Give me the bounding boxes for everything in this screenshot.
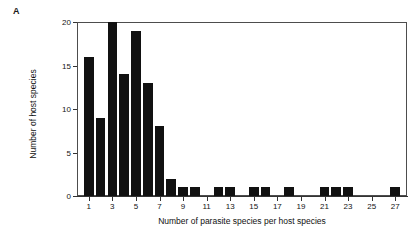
- x-axis-tick-label: 11: [196, 202, 218, 211]
- bars-layer: [77, 22, 407, 196]
- histogram-bar: [343, 187, 353, 196]
- x-axis-tick: [207, 197, 208, 201]
- x-axis-tick-label: 5: [125, 202, 147, 211]
- histogram-figure: A 05101520 Number of host species 135791…: [0, 0, 420, 237]
- y-axis-line: [77, 22, 78, 197]
- x-axis-tick: [348, 197, 349, 201]
- x-axis-tick-label: 25: [361, 202, 383, 211]
- x-axis-tick-label: 21: [314, 202, 336, 211]
- histogram-bar: [331, 187, 341, 196]
- x-axis-tick: [325, 197, 326, 201]
- histogram-bar: [178, 187, 188, 196]
- y-axis-tick-label: 0: [49, 192, 71, 201]
- histogram-bar: [96, 118, 106, 196]
- y-axis-tick-label: 5: [49, 148, 71, 157]
- x-axis-tick: [160, 197, 161, 201]
- y-axis-tick-label: 20: [49, 18, 71, 27]
- histogram-bar: [119, 74, 129, 196]
- x-axis-tick: [277, 197, 278, 201]
- histogram-bar: [225, 187, 235, 196]
- y-axis-tick: [73, 66, 77, 67]
- histogram-bar: [249, 187, 259, 196]
- histogram-bar: [131, 31, 141, 196]
- x-axis-tick: [395, 197, 396, 201]
- x-axis-tick-label: 13: [219, 202, 241, 211]
- x-axis-tick: [230, 197, 231, 201]
- panel-label-a: A: [13, 6, 20, 16]
- x-axis-tick-label: 15: [243, 202, 265, 211]
- x-axis-tick: [112, 197, 113, 201]
- histogram-bar: [84, 57, 94, 196]
- y-axis-tick-labels: 05101520: [46, 0, 71, 237]
- x-axis-tick-label: 7: [149, 202, 171, 211]
- x-axis-tick: [372, 197, 373, 201]
- x-axis-tick: [254, 197, 255, 201]
- y-axis-tick: [73, 22, 77, 23]
- y-axis-tick: [73, 153, 77, 154]
- histogram-bar: [166, 179, 176, 196]
- y-axis-tick-label: 10: [49, 105, 71, 114]
- histogram-bar: [190, 187, 200, 196]
- x-axis-line: [77, 196, 408, 197]
- histogram-bar: [155, 126, 165, 196]
- histogram-bar: [214, 187, 224, 196]
- x-axis-tick: [183, 197, 184, 201]
- y-axis-tick: [73, 109, 77, 110]
- x-axis-tick-label: 23: [337, 202, 359, 211]
- histogram-bar: [108, 22, 118, 196]
- x-axis-tick-label: 27: [384, 202, 406, 211]
- x-axis-tick: [136, 197, 137, 201]
- histogram-bar: [390, 187, 400, 196]
- histogram-bar: [143, 83, 153, 196]
- x-axis-tick-label: 9: [172, 202, 194, 211]
- x-axis-tick-label: 1: [78, 202, 100, 211]
- x-axis-tick-label: 17: [266, 202, 288, 211]
- histogram-bar: [261, 187, 271, 196]
- y-axis-title: Number of host species: [28, 34, 38, 194]
- x-axis-title: Number of parasite species per host spec…: [77, 216, 407, 226]
- x-axis-tick-label: 3: [101, 202, 123, 211]
- histogram-bar: [284, 187, 294, 196]
- histogram-bar: [320, 187, 330, 196]
- x-axis-tick: [301, 197, 302, 201]
- x-axis-tick-label: 19: [290, 202, 312, 211]
- x-axis-tick: [89, 197, 90, 201]
- y-axis-tick-label: 15: [49, 61, 71, 70]
